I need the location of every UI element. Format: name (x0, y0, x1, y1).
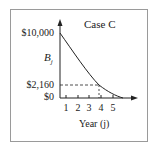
x-tick-5: 5 (108, 103, 118, 113)
chart-plot (0, 0, 154, 147)
x-axis-arrow-icon (131, 96, 138, 101)
x-tick-2: 2 (73, 103, 83, 113)
y-tick-0: $0 (8, 92, 54, 102)
chart-title: Case C (84, 19, 115, 29)
x-tick-4: 4 (96, 103, 106, 113)
y-axis-arrow-icon (58, 19, 63, 26)
x-axis-label: Year (j) (79, 119, 109, 129)
y-tick-10000: $10,000 (8, 28, 54, 38)
y-tick-2160: $2,160 (8, 80, 54, 90)
x-tick-3: 3 (84, 103, 94, 113)
y-axis-label: Bj (44, 52, 53, 67)
x-tick-1: 1 (61, 103, 71, 113)
balance-curve (60, 33, 123, 98)
